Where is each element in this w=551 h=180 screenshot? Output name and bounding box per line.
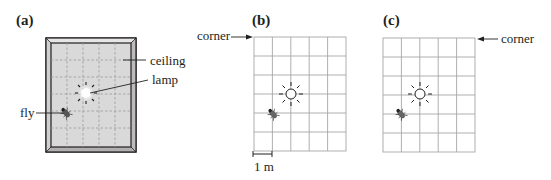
fly-label: fly (20, 105, 35, 120)
panel-c: (c) corner (383, 12, 535, 152)
scale-label: 1 m (254, 159, 274, 174)
lamp-icon (279, 82, 303, 106)
ceiling-label: ceiling (150, 53, 186, 68)
panel-b: (b) corner (197, 12, 346, 174)
scale-bar (253, 151, 272, 157)
figure-canvas: (a) (0, 0, 551, 180)
panel-a-label: (a) (16, 12, 34, 29)
corner-label-b: corner (197, 28, 231, 43)
corner-label-c: corner (501, 31, 535, 46)
lamp-icon (408, 82, 432, 106)
lamp-label: lamp (152, 72, 178, 87)
corner-arrow-c (477, 37, 498, 42)
panel-c-label: (c) (383, 12, 400, 29)
corner-arrow-b (231, 35, 253, 40)
panel-a: (a) (16, 12, 186, 152)
panel-b-label: (b) (252, 12, 270, 29)
grid-c (383, 38, 475, 152)
